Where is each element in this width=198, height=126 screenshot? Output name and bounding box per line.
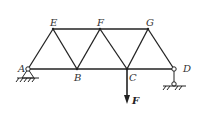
joint-label-A: A: [17, 63, 25, 74]
member-CG: [127, 29, 148, 69]
joint-label-B: B: [73, 72, 81, 83]
member-FC: [100, 29, 127, 69]
joint-label-F: F: [96, 17, 105, 28]
member-BF: [77, 29, 100, 69]
joint-dots: [52, 28, 149, 70]
truss-members: [28, 29, 174, 69]
member-GD: [148, 29, 174, 69]
member-AE: [28, 29, 53, 69]
force-label: F: [131, 95, 140, 106]
joint-label-C: C: [129, 72, 137, 83]
member-EB: [53, 29, 77, 69]
joint-label-G: G: [146, 17, 154, 28]
truss-diagram: E F G A B C D F: [0, 0, 198, 126]
joint-label-E: E: [49, 17, 58, 28]
joint-label-D: D: [182, 63, 191, 74]
